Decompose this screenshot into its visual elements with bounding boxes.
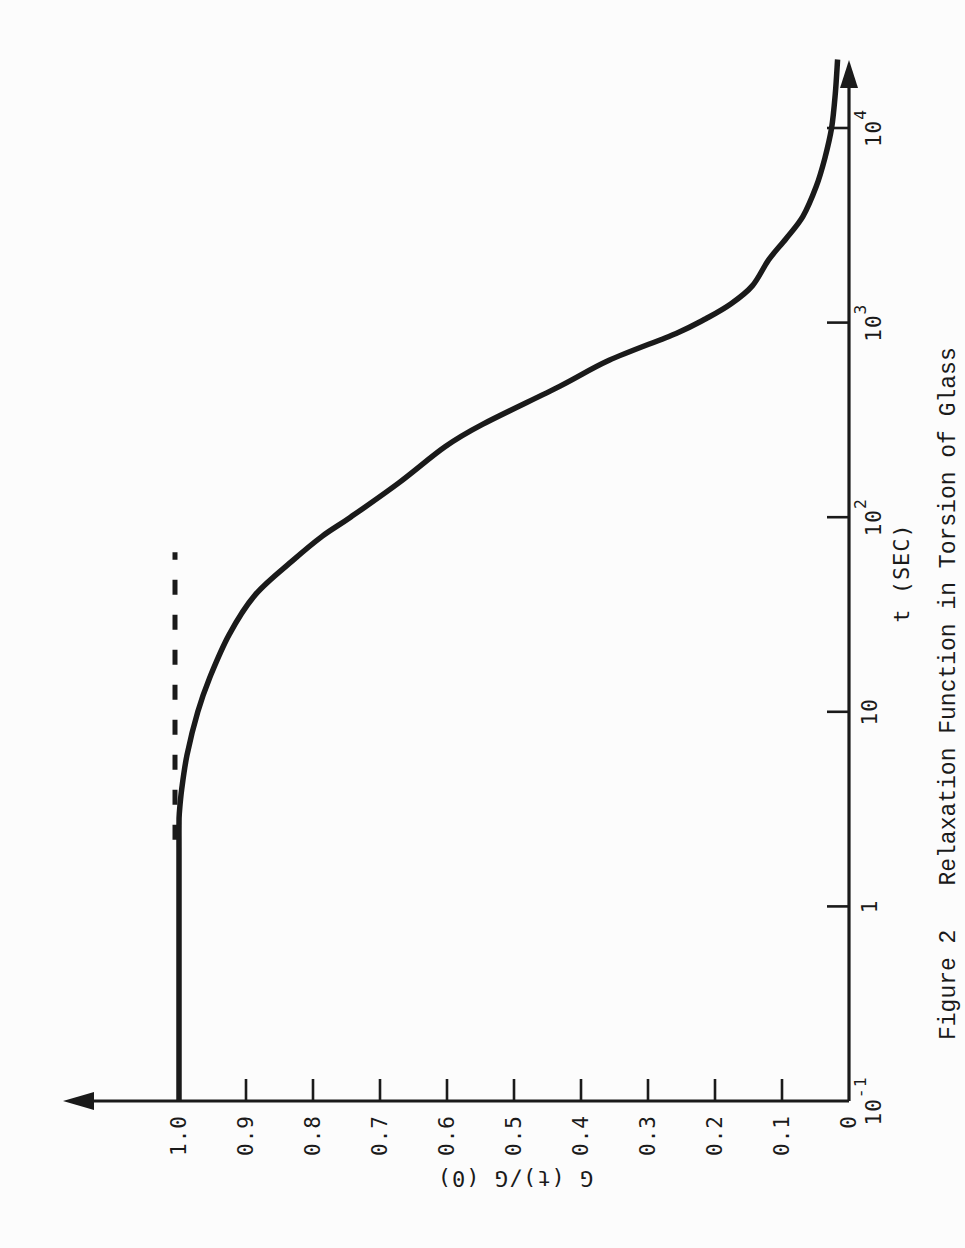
relaxation-curve — [179, 60, 838, 1102]
scanned-page: { "page": { "background": "#fcfcfc", "in… — [0, 0, 965, 1248]
y-tick-label: 0.1 — [770, 1115, 794, 1156]
figure-rotated-canvas: t (SEC) G (t)/G (0) Figure 2Relaxation F… — [0, 0, 965, 1248]
x-tick-label: 104 — [858, 109, 886, 147]
y-tick-label: 0.6 — [435, 1115, 459, 1156]
x-tick-label: 10 — [858, 698, 882, 725]
x-axis-arrowhead — [840, 60, 858, 88]
figure-caption: Figure 2Relaxation Function in Torsion o… — [936, 347, 962, 1040]
y-tick-label: 1.0 — [167, 1115, 191, 1156]
x-tick-label: 10-1 — [858, 1077, 886, 1126]
y-tick-label: 0.4 — [569, 1115, 593, 1156]
y-tick-label: 0.9 — [234, 1115, 258, 1156]
y-tick-label: 0.7 — [368, 1115, 392, 1156]
y-tick-label: 0.2 — [703, 1115, 727, 1156]
x-tick-label: 102 — [858, 498, 886, 536]
x-tick-label: 103 — [858, 304, 886, 342]
plot-area — [0, 0, 965, 1248]
y-axis-title: G (t)/G (0) — [437, 1166, 594, 1191]
figure-title: Relaxation Function in Torsion of Glass — [936, 347, 962, 885]
x-axis-title: t (SEC) — [889, 523, 914, 623]
figure-page: t (SEC) G (t)/G (0) Figure 2Relaxation F… — [0, 0, 965, 1248]
y-tick-label: 0.8 — [301, 1115, 325, 1156]
y-tick-label: 0.5 — [502, 1115, 526, 1156]
y-tick-label: 0 — [837, 1115, 861, 1129]
figure-number: Figure 2 — [936, 930, 962, 1040]
y-axis-arrowhead — [63, 1092, 94, 1110]
y-tick-label: 0.3 — [636, 1115, 660, 1156]
x-tick-label: 1 — [858, 900, 882, 914]
